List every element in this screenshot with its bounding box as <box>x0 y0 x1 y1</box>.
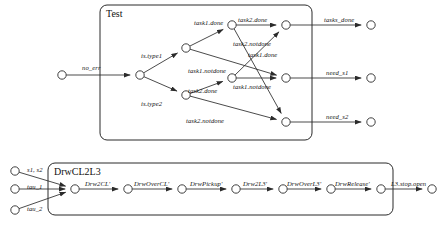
edge-is-type2 <box>144 77 177 91</box>
edge-need-s2-out-label: need_s2 <box>326 114 348 121</box>
edge-task1-done-label: task1.done <box>194 20 223 27</box>
edge-task1-notdone-label: task1.notdone <box>188 68 226 75</box>
edge-no-err-label: no_err <box>82 65 101 72</box>
state-node-drw-input-top[interactable] <box>11 167 19 175</box>
edge-drw-in-top-label: s1, s2 <box>27 167 43 174</box>
edge-is-type1-label: is.type1 <box>141 53 162 60</box>
edge-tasks-done-out-label: tasks_done <box>324 17 354 24</box>
edge-drw2cl-label: Drw2CL' <box>85 181 110 188</box>
state-node-drw-input-bottom[interactable] <box>11 206 19 214</box>
state-node-test-mid-lower[interactable] <box>228 74 236 82</box>
state-node-output-tasks-done[interactable] <box>367 21 375 29</box>
edge-drwoverl3-label: DrwOverL3' <box>287 181 321 188</box>
edge-task1-done-2-label: task1.done <box>248 52 277 59</box>
state-node-test-branch[interactable] <box>136 71 144 79</box>
edge-task2-notdone-2-label: task2.notdone <box>233 41 271 48</box>
edge-drwrelease-label: DrwRelease' <box>335 181 370 188</box>
edge-drwpickup-label: DrwPickup' <box>190 181 222 188</box>
state-node-drw-node-3[interactable] <box>232 185 240 193</box>
state-node-input-no-err[interactable] <box>58 71 66 79</box>
edge-need-s1-out-label: need_s1 <box>326 70 348 77</box>
state-node-drw-node-start[interactable] <box>71 185 79 193</box>
state-node-test-need-s1[interactable] <box>282 74 290 82</box>
state-node-test-tasks-done[interactable] <box>282 21 290 29</box>
edge-drw-in-bottom-label: tau_2 <box>27 206 43 213</box>
state-node-test-type1[interactable] <box>182 44 190 52</box>
diagram-canvas: TestDrwCL2L3no_erris.type1is.type2task1.… <box>0 0 446 229</box>
diagram-wires <box>0 0 446 229</box>
state-node-test-mid-upper[interactable] <box>228 21 236 29</box>
state-node-drw-node-1[interactable] <box>124 185 132 193</box>
state-node-test-need-s2[interactable] <box>282 118 290 126</box>
state-node-output-need-s1[interactable] <box>367 74 375 82</box>
edge-task2-notdone-label: task2.notdone <box>186 118 224 125</box>
edge-task2-done-label: task2.done <box>188 88 217 95</box>
group-title-test: Test <box>106 8 123 19</box>
edge-task2-done-2-label: task2.done <box>238 17 267 24</box>
state-node-drw-node-4[interactable] <box>279 185 287 193</box>
state-node-output-need-s2[interactable] <box>367 118 375 126</box>
edge-drwovercl-label: DrwOverCL' <box>134 181 169 188</box>
edge-drw2l3-label: Drw2L3' <box>243 181 267 188</box>
state-node-drw-node-6[interactable] <box>377 185 385 193</box>
edge-task1-done <box>190 29 223 46</box>
group-title-drwcl2l3: DrwCL2L3 <box>54 166 101 177</box>
state-node-drw-input-mid[interactable] <box>11 185 19 193</box>
edge-task1-notdone-2-label: task1.notdone <box>233 84 271 91</box>
edge-is-type2-label: is.type2 <box>141 101 162 108</box>
state-node-drw-output[interactable] <box>428 185 436 193</box>
state-node-drw-node-5[interactable] <box>327 185 335 193</box>
state-node-drw-node-2[interactable] <box>178 185 186 193</box>
edge-task2-notdone <box>190 96 276 119</box>
edge-l3-stop-open-label: L3.stop.open <box>391 181 426 188</box>
edge-drw-in-mid-label: tau_1 <box>27 184 43 191</box>
